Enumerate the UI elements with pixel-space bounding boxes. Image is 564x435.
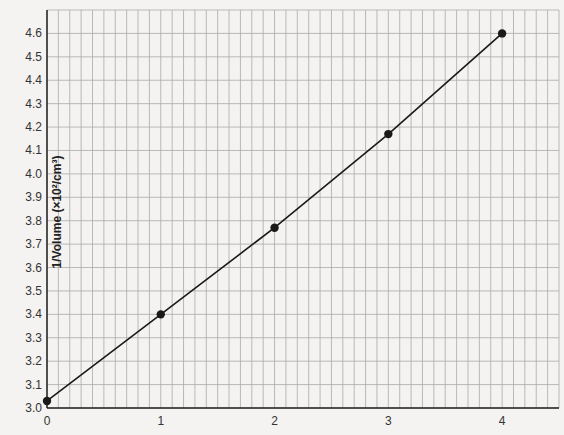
y-tick-label: 3.0 [25,401,42,415]
y-tick-label: 3.1 [25,378,42,392]
y-tick-label: 4.0 [25,167,42,181]
y-tick-label: 3.8 [25,214,42,228]
x-tick-label: 2 [271,414,278,428]
x-tick-label: 1 [157,414,164,428]
y-tick-label: 4.1 [25,143,42,157]
data-point-marker [270,224,278,232]
y-tick-label: 4.6 [25,26,42,40]
y-tick-label: 4.4 [25,73,42,87]
y-tick-label: 3.9 [25,190,42,204]
y-tick-label: 3.4 [25,307,42,321]
x-tick-label: 3 [385,414,392,428]
data-point-marker [43,397,51,405]
y-tick-label: 4.5 [25,50,42,64]
y-tick-label: 3.5 [25,284,42,298]
grid [47,10,559,408]
y-tick-label: 3.2 [25,354,42,368]
data-point-marker [157,310,165,318]
y-tick-label: 3.6 [25,261,42,275]
y-tick-label: 4.2 [25,120,42,134]
y-tick-label: 3.3 [25,331,42,345]
y-tick-label: 4.3 [25,97,42,111]
x-tick-label: 4 [499,414,506,428]
data-point-marker [498,29,506,37]
x-tick-label: 0 [44,414,51,428]
line-chart: 3.03.13.23.33.43.53.63.73.83.94.04.14.24… [0,0,564,435]
y-tick-label: 3.7 [25,237,42,251]
data-point-marker [384,130,392,138]
y-axis-label: 1/Volume (×10²/cm³) [50,156,64,269]
